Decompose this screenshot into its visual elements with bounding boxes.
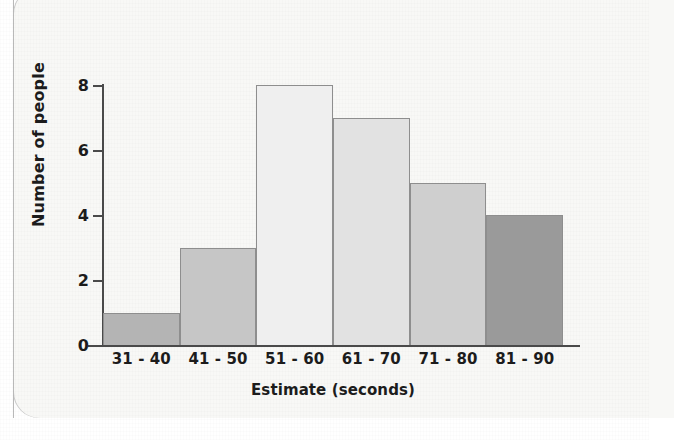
x-tick-label-71-80: 71 - 80 [410, 350, 487, 368]
x-tick-label-31-40: 31 - 40 [103, 350, 180, 368]
x-axis-line [88, 345, 580, 347]
x-tick-label-61-70: 61 - 70 [333, 350, 410, 368]
y-tick-label-8: 8 [78, 76, 89, 95]
bar-81-90 [486, 215, 563, 345]
y-tick-6 [93, 150, 102, 152]
bar-series [103, 85, 563, 345]
x-tick-label-41-50: 41 - 50 [180, 350, 257, 368]
bar-51-60 [256, 85, 333, 345]
y-tick-label-0: 0 [78, 336, 89, 355]
bar-31-40 [103, 313, 180, 346]
x-tick-label-81-90: 81 - 90 [486, 350, 563, 368]
y-tick-label-6: 6 [78, 141, 89, 160]
y-tick-4 [93, 215, 102, 217]
y-tick-8 [93, 85, 102, 87]
y-tick-0 [93, 345, 102, 347]
x-tick-label-51-60: 51 - 60 [256, 350, 333, 368]
y-axis-title: Number of people [29, 45, 48, 245]
bar-41-50 [180, 248, 257, 346]
plot-area [103, 85, 563, 345]
x-axis-title: Estimate (seconds) [103, 381, 563, 399]
y-tick-2 [93, 280, 102, 282]
bar-61-70 [333, 118, 410, 346]
bar-71-80 [410, 183, 487, 346]
x-axis-tick-labels: 31 - 4041 - 5051 - 6061 - 7071 - 8081 - … [103, 350, 563, 368]
y-tick-label-4: 4 [78, 206, 89, 225]
y-tick-label-2: 2 [78, 271, 89, 290]
